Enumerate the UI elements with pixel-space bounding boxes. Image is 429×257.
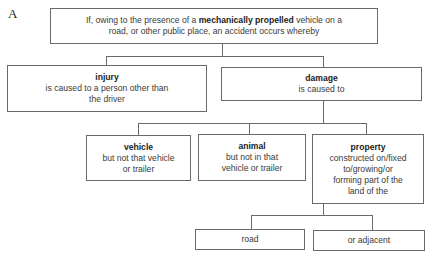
root-line-2: road, or other public place, an accident…	[109, 26, 320, 37]
road-label: road	[241, 234, 258, 245]
injury-line-2: the driver	[89, 94, 125, 105]
root-text-after: vehicle on a	[294, 15, 342, 25]
animal-line-2: vehicle or trailer	[222, 163, 283, 174]
injury-title: injury	[95, 72, 118, 83]
vehicle-box: vehicle but not that vehicle or trailer	[86, 135, 191, 181]
connector-property-adjacent	[324, 216, 373, 231]
animal-box: animal but not in that vehicle or traile…	[198, 134, 306, 181]
property-title: property	[351, 142, 386, 153]
root-text-before: If, owing to the presence of a	[86, 15, 199, 25]
animal-line-1: but not in that	[226, 152, 278, 163]
damage-box: damage is caused to	[221, 67, 422, 101]
root-line-1: If, owing to the presence of a mechanica…	[86, 15, 342, 26]
property-line-3: forming part of the	[333, 175, 403, 186]
connector-damage-property	[324, 124, 367, 135]
root-text-bold: mechanically propelled	[199, 15, 294, 25]
injury-line-1: is caused to a person other than	[46, 83, 169, 94]
property-line-1: constructed on/fixed	[330, 153, 407, 164]
connector-root-injury	[107, 43, 223, 65]
damage-title: damage	[305, 73, 337, 84]
adjacent-label: or adjacent	[348, 235, 391, 246]
connector-root-damage	[223, 57, 324, 68]
road-box: road	[195, 229, 305, 250]
connector-property-road	[252, 203, 324, 229]
vehicle-line-2: or trailer	[123, 164, 155, 175]
vehicle-title: vehicle	[124, 142, 153, 153]
damage-line-1: is caused to	[299, 84, 345, 95]
injury-box: injury is caused to a person other than …	[7, 65, 207, 112]
property-line-2: to/growing/or	[343, 164, 393, 175]
adjacent-box: or adjacent	[313, 230, 425, 251]
property-box: property constructed on/fixed to/growing…	[312, 134, 424, 204]
vehicle-line-1: but not that vehicle	[102, 153, 174, 164]
property-line-4: land of the	[348, 186, 388, 197]
root-condition-box: If, owing to the presence of a mechanica…	[50, 8, 378, 44]
animal-title: animal	[238, 141, 265, 152]
